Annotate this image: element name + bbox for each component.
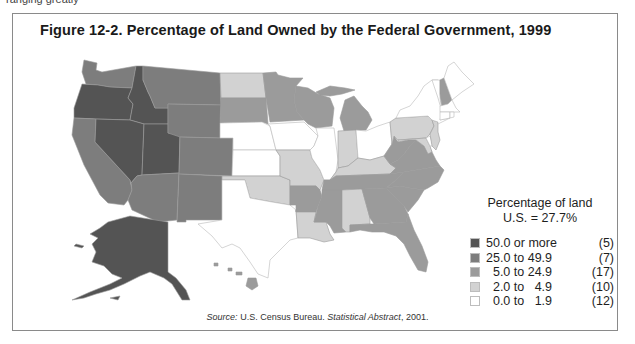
source-publication: Statistical Abstract <box>327 312 401 322</box>
state-ND <box>220 73 266 98</box>
legend-swatch <box>470 296 480 306</box>
legend-range-label: 50.0 or more <box>486 236 584 250</box>
legend-count: (12) <box>584 294 614 308</box>
legend-row: 25.0 to 49.9 (7) <box>470 251 615 266</box>
state-AZ <box>128 173 179 222</box>
source-agency: U.S. Census Bureau. <box>238 312 328 322</box>
state-WA <box>82 60 136 88</box>
state-IA <box>268 122 318 150</box>
legend-swatch <box>470 253 480 263</box>
state-HI <box>214 263 258 290</box>
legend-swatch <box>470 267 480 277</box>
legend-count: (7) <box>584 251 614 265</box>
state-AK <box>72 216 190 300</box>
legend-count: (10) <box>584 280 614 294</box>
legend-title-line1: Percentage of land <box>470 196 610 211</box>
legend-row: 50.0 or more (5) <box>470 236 615 251</box>
state-WY <box>168 104 221 138</box>
legend-row: 2.0 to 4.9 (10) <box>470 280 615 295</box>
legend-swatch <box>470 238 480 248</box>
legend-range-label: 0.0 to 1.9 <box>486 294 584 308</box>
state-KS <box>232 150 280 176</box>
legend-row: 5.0 to 24.9 (17) <box>470 265 615 280</box>
legend-range-label: 5.0 to 24.9 <box>486 265 584 279</box>
legend-row: 0.0 to 1.9 (12) <box>470 294 615 309</box>
legend-range-label: 25.0 to 49.9 <box>486 251 584 265</box>
legend-title: Percentage of land U.S. = 27.7% <box>470 196 610 226</box>
state-RI <box>450 112 454 118</box>
legend-count: (5) <box>584 236 614 250</box>
legend: Percentage of land U.S. = 27.7% 50.0 or … <box>470 196 615 309</box>
state-CO <box>179 137 233 176</box>
legend-title-line2: U.S. = 27.7% <box>470 211 610 226</box>
state-NM <box>177 174 222 222</box>
source-year: , 2001. <box>401 312 429 322</box>
legend-rows: 50.0 or more (5) 25.0 to 49.9 (7) 5.0 to… <box>470 236 615 309</box>
state-SD <box>220 98 268 124</box>
source-note: Source: U.S. Census Bureau. Statistical … <box>0 312 635 322</box>
legend-swatch <box>470 282 480 292</box>
legend-range-label: 2.0 to 4.9 <box>486 280 584 294</box>
legend-count: (17) <box>584 265 614 279</box>
source-prefix: Source: <box>207 312 238 322</box>
state-MT <box>143 66 221 108</box>
state-OR <box>74 84 133 120</box>
